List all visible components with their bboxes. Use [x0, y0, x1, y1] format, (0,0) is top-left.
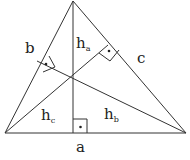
triangle-altitudes-diagram: b c a ha hb hc	[0, 0, 190, 160]
dot-a	[79, 126, 82, 129]
side-c	[73, 1, 186, 133]
label-side-c: c	[137, 49, 145, 67]
side-b	[5, 1, 73, 133]
label-ha: ha	[76, 34, 91, 53]
dot-b	[45, 63, 48, 66]
altitudes	[5, 1, 186, 133]
label-hc: hc	[41, 106, 56, 125]
altitude-hc	[5, 45, 108, 133]
dot-c	[108, 50, 111, 53]
label-side-a: a	[76, 138, 85, 156]
label-hb: hb	[104, 105, 119, 124]
label-side-b: b	[25, 39, 35, 57]
triangle	[5, 1, 186, 133]
